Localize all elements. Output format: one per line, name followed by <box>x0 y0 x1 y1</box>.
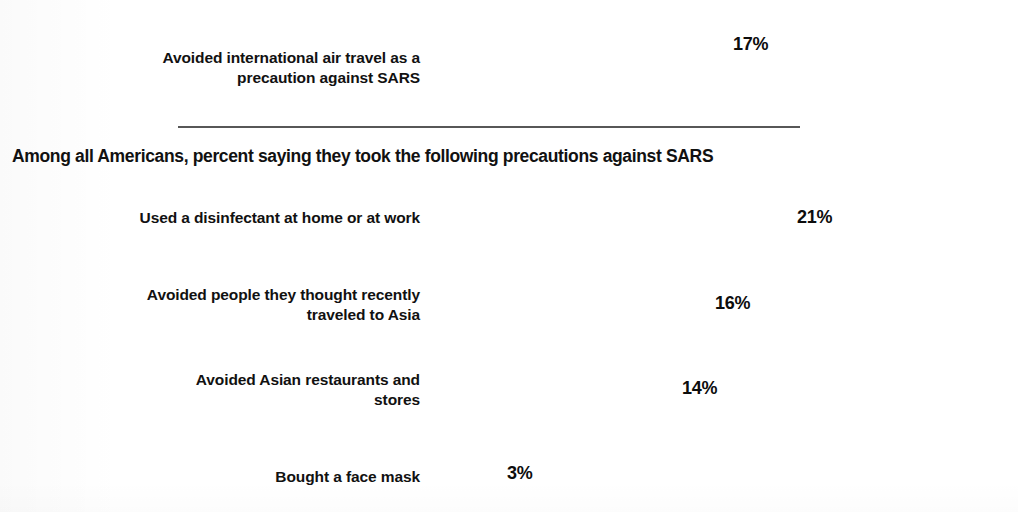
bar-value-avoid-restaurants: 14% <box>682 376 717 401</box>
bar-label-disinfectant: Used a disinfectant at home or at work <box>10 208 420 228</box>
bar-label-line1: Avoided international air travel as a <box>162 49 420 66</box>
bar-track-avoid-restaurants <box>444 377 675 404</box>
bar-value-avoid-people: 16% <box>715 291 750 316</box>
bar-value-face-mask: 3% <box>507 461 533 486</box>
bar-value-air-travel: 17% <box>733 32 768 57</box>
bar-label-line1: Avoided Asian restaurants and <box>196 371 420 388</box>
bar-track-avoid-people <box>444 292 708 319</box>
bar-label-line2: traveled to Asia <box>307 306 420 323</box>
bar-label-face-mask: Bought a face mask <box>10 467 420 487</box>
bar-row-avoid-people: Avoided people they thought recently tra… <box>0 280 1018 340</box>
bar-row-air-travel: Avoided international air travel as a pr… <box>0 22 1018 82</box>
bar-label-line1: Avoided people they thought recently <box>147 286 420 303</box>
bar-track-air-travel <box>444 33 725 60</box>
bar-label-line2: stores <box>374 391 420 408</box>
bar-label-line2: precaution against SARS <box>237 69 420 86</box>
bar-label-air-travel: Avoided international air travel as a pr… <box>10 48 420 88</box>
bar-row-face-mask: Bought a face mask 3% <box>0 450 1018 510</box>
bar-label-avoid-people: Avoided people they thought recently tra… <box>10 285 420 325</box>
bar-track-disinfectant <box>444 206 789 233</box>
bar-chart: Avoided international air travel as a pr… <box>0 0 1018 512</box>
bar-row-disinfectant: Used a disinfectant at home or at work 2… <box>0 196 1018 256</box>
bar-value-disinfectant: 21% <box>797 205 832 230</box>
bar-track-face-mask <box>444 462 499 489</box>
bar-label-avoid-restaurants: Avoided Asian restaurants and stores <box>10 370 420 410</box>
section-heading: Among all Americans, percent saying they… <box>12 144 1012 168</box>
section-divider <box>178 126 800 128</box>
bar-row-avoid-restaurants: Avoided Asian restaurants and stores 14% <box>0 365 1018 425</box>
